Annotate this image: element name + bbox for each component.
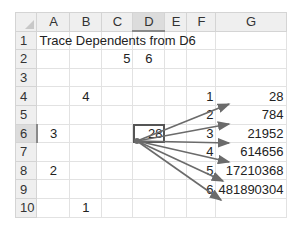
cell-a1[interactable]: Trace Dependents from D6 (37, 31, 70, 50)
cell-b3[interactable] (70, 68, 102, 87)
cell-a7[interactable] (37, 143, 70, 162)
column-header-g[interactable]: G (216, 13, 286, 32)
row-header-2[interactable]: 2 (16, 50, 37, 69)
cell-f6[interactable]: 3 (187, 124, 216, 143)
cell-d8[interactable] (133, 161, 165, 180)
spreadsheet-grid: A B C D E F G 1 Trace Dependents from D6… (15, 12, 287, 218)
cell-e6[interactable] (165, 124, 187, 143)
cell-b8[interactable] (70, 161, 102, 180)
cell-e9[interactable] (165, 180, 187, 199)
cell-b7[interactable] (70, 143, 102, 162)
cell-g1[interactable] (216, 31, 286, 50)
cell-g7[interactable]: 614656 (216, 143, 286, 162)
row-header-5[interactable]: 5 (16, 105, 37, 124)
cell-g9[interactable]: 481890304 (216, 180, 286, 199)
cell-a2[interactable] (37, 50, 70, 69)
sheet-title-text: Trace Dependents from D6 (39, 33, 195, 48)
cell-c4[interactable] (102, 87, 133, 106)
cell-d9[interactable] (133, 180, 165, 199)
cell-g8[interactable]: 17210368 (216, 161, 286, 180)
column-header-a[interactable]: A (37, 13, 70, 32)
cell-c8[interactable] (102, 161, 133, 180)
row-header-1[interactable]: 1 (16, 31, 37, 50)
cell-b10[interactable]: 1 (70, 198, 102, 217)
column-header-f[interactable]: F (187, 13, 216, 32)
column-header-c[interactable]: C (102, 13, 133, 32)
cell-b4[interactable]: 4 (70, 87, 102, 106)
cell-e8[interactable] (165, 161, 187, 180)
cell-e2[interactable] (165, 50, 187, 69)
row-header-4[interactable]: 4 (16, 87, 37, 106)
active-cell-d6[interactable]: 28 (133, 124, 165, 143)
cell-g3[interactable] (216, 68, 286, 87)
select-all-button[interactable] (16, 13, 37, 32)
cell-c5[interactable] (102, 105, 133, 124)
cell-b2[interactable] (70, 50, 102, 69)
cell-a5[interactable] (37, 105, 70, 124)
cell-b9[interactable] (70, 180, 102, 199)
cell-g4[interactable]: 28 (216, 87, 286, 106)
cell-f4[interactable]: 1 (187, 87, 216, 106)
cell-f9[interactable]: 6 (187, 180, 216, 199)
row-header-3[interactable]: 3 (16, 68, 37, 87)
cell-e3[interactable] (165, 68, 187, 87)
cell-a3[interactable] (37, 68, 70, 87)
cell-c7[interactable] (102, 143, 133, 162)
cell-e10[interactable] (165, 198, 187, 217)
cell-d7[interactable] (133, 143, 165, 162)
cell-b5[interactable] (70, 105, 102, 124)
cell-e5[interactable] (165, 105, 187, 124)
row-header-10[interactable]: 10 (16, 198, 37, 217)
row-header-9[interactable]: 9 (16, 180, 37, 199)
cell-d10[interactable] (133, 198, 165, 217)
cell-d2[interactable]: 6 (133, 50, 165, 69)
cell-f3[interactable] (187, 68, 216, 87)
cell-f7[interactable]: 4 (187, 143, 216, 162)
cell-b6[interactable] (70, 124, 102, 143)
cell-c3[interactable] (102, 68, 133, 87)
cell-g5[interactable]: 784 (216, 105, 286, 124)
cell-c6[interactable] (102, 124, 133, 143)
column-header-e[interactable]: E (165, 13, 187, 32)
cell-a9[interactable] (37, 180, 70, 199)
column-header-d[interactable]: D (133, 13, 165, 32)
cell-c10[interactable] (102, 198, 133, 217)
cell-f10[interactable] (187, 198, 216, 217)
cell-g6[interactable]: 21952 (216, 124, 286, 143)
row-header-6[interactable]: 6 (16, 124, 37, 143)
cell-d4[interactable] (133, 87, 165, 106)
cell-g2[interactable] (216, 50, 286, 69)
row-header-8[interactable]: 8 (16, 161, 37, 180)
row-header-7[interactable]: 7 (16, 143, 37, 162)
cell-c2[interactable]: 5 (102, 50, 133, 69)
cell-a8[interactable]: 2 (37, 161, 70, 180)
cell-f8[interactable]: 5 (187, 161, 216, 180)
cell-e4[interactable] (165, 87, 187, 106)
cell-a10[interactable] (37, 198, 70, 217)
cell-a6[interactable]: 3 (37, 124, 70, 143)
cell-f2[interactable] (187, 50, 216, 69)
cell-d3[interactable] (133, 68, 165, 87)
cell-d5[interactable] (133, 105, 165, 124)
column-header-b[interactable]: B (70, 13, 102, 32)
cell-c9[interactable] (102, 180, 133, 199)
cell-e7[interactable] (165, 143, 187, 162)
cell-g10[interactable] (216, 198, 286, 217)
cell-f5[interactable]: 2 (187, 105, 216, 124)
cell-a4[interactable] (37, 87, 70, 106)
